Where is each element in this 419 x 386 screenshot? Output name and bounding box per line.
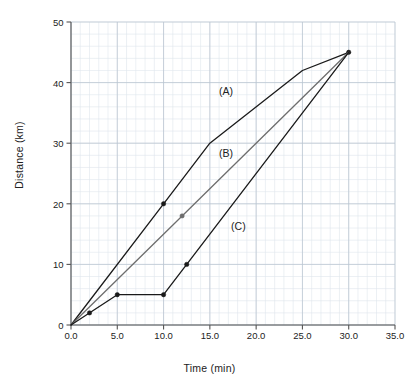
y-axis-title-wrapper: Distance (km) (9, 75, 27, 235)
x-tick-label: 0.0 (64, 330, 77, 341)
data-point-marker (87, 311, 91, 315)
data-point-marker (115, 293, 119, 297)
x-tick-label: 10.0 (154, 330, 173, 341)
x-tick-label: 20.0 (247, 330, 266, 341)
series-label-a: (A) (219, 85, 233, 97)
y-tick-label: 0 (38, 320, 64, 331)
distance-time-chart: 0.05.010.015.020.025.030.035.00102030405… (0, 0, 419, 386)
data-point-marker (161, 202, 165, 206)
data-point-marker (185, 262, 189, 266)
x-tick-label: 35.0 (386, 330, 405, 341)
y-tick-label: 10 (38, 259, 64, 270)
x-axis-title: Time (min) (0, 362, 419, 374)
series-label-b: (B) (219, 147, 233, 159)
x-tick-label: 25.0 (293, 330, 312, 341)
x-tick-label: 15.0 (201, 330, 220, 341)
data-series-layer (71, 50, 351, 325)
y-tick-label: 30 (38, 138, 64, 149)
axis-ticks (67, 22, 396, 330)
y-tick-label: 40 (38, 77, 64, 88)
y-tick-label: 20 (38, 198, 64, 209)
axis-lines (71, 22, 395, 325)
x-tick-label: 30.0 (339, 330, 358, 341)
y-axis-title: Distance (km) (13, 121, 25, 188)
y-tick-label: 50 (38, 17, 64, 28)
x-tick-label: 5.0 (111, 330, 124, 341)
data-point-marker (161, 293, 165, 297)
data-point-marker (180, 214, 184, 218)
minor-gridlines (71, 22, 395, 325)
series-label-c: (C) (231, 220, 246, 232)
major-gridlines (71, 22, 395, 325)
